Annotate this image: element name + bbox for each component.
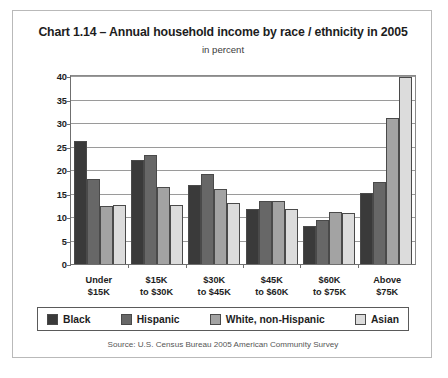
bar	[144, 155, 157, 264]
bar-group	[243, 76, 300, 264]
bar	[342, 213, 355, 264]
y-axis-tick-label: 40	[57, 72, 67, 82]
bar	[303, 226, 316, 264]
bar	[399, 77, 412, 264]
bar	[259, 201, 272, 264]
x-axis-category-label: $30Kto $45K	[185, 275, 243, 298]
x-axis-labels: Under$15K$15Kto $30K$30Kto $45K$45Kto $6…	[70, 275, 416, 298]
bar	[214, 189, 227, 264]
bar	[329, 212, 342, 264]
legend-swatch-icon	[47, 314, 58, 325]
legend-swatch-icon	[121, 314, 132, 325]
y-axis-tick-label: 10	[57, 213, 67, 223]
bar-group	[186, 76, 243, 264]
x-axis-category-label: $60Kto $75K	[301, 275, 359, 298]
legend-item[interactable]: Black	[47, 314, 90, 325]
x-axis-category-label-line: to $45K	[185, 287, 243, 299]
bar	[87, 179, 100, 264]
x-axis-category-label-line: $75K	[358, 287, 416, 299]
bar	[170, 205, 183, 264]
bar-group	[128, 76, 185, 264]
bar-group	[71, 76, 128, 264]
x-axis-category-label-line: $60K	[301, 275, 359, 287]
plot-wrapper: 0510152025303540 Under$15K$15Kto $30K$30…	[44, 69, 416, 265]
y-axis-tick-mark	[67, 265, 71, 266]
y-axis-tick-label: 30	[57, 119, 67, 129]
x-axis-category-label: Above$75K	[358, 275, 416, 298]
x-axis-tick-mark	[243, 264, 244, 268]
legend-label: Asian	[371, 314, 399, 325]
x-axis-category-label-line: Under	[70, 275, 128, 287]
bar-group	[358, 76, 415, 264]
y-axis-tick-label: 15	[57, 190, 67, 200]
legend-item[interactable]: Hispanic	[121, 314, 180, 325]
chart-figure-frame: Chart 1.14 – Annual household income by …	[12, 10, 432, 358]
bar	[157, 187, 170, 264]
x-axis-category-label-line: $30K	[185, 275, 243, 287]
x-axis-category-label-line: to $60K	[243, 287, 301, 299]
bar	[373, 182, 386, 264]
x-axis-category-label: $15Kto $30K	[128, 275, 186, 298]
y-axis-tick-label: 20	[57, 166, 67, 176]
bar-group	[300, 76, 357, 264]
bar	[188, 185, 201, 264]
bar	[285, 209, 298, 264]
bar	[113, 205, 126, 264]
bar	[227, 203, 240, 264]
x-axis-category-label-line: $15K	[70, 287, 128, 299]
chart-source: Source: U.S. Census Bureau 2005 American…	[13, 340, 433, 349]
x-axis-tick-mark	[186, 264, 187, 268]
chart-legend: BlackHispanicWhite, non-HispanicAsian	[37, 307, 409, 331]
x-axis-category-label: Under$15K	[70, 275, 128, 298]
bar	[272, 201, 285, 264]
plot-area: 0510152025303540	[70, 75, 416, 265]
x-axis-tick-mark	[300, 264, 301, 268]
x-axis-category-label: $45Kto $60K	[243, 275, 301, 298]
chart-subtitle: in percent	[13, 44, 433, 55]
x-axis-category-label-line: to $30K	[128, 287, 186, 299]
bar	[386, 118, 399, 264]
bar	[74, 141, 87, 264]
x-axis-category-label-line: $15K	[128, 275, 186, 287]
legend-item[interactable]: Asian	[355, 314, 399, 325]
bar	[246, 209, 259, 264]
bar	[100, 206, 113, 264]
x-axis-tick-mark	[358, 264, 359, 268]
bar	[360, 193, 373, 264]
y-axis-tick-label: 35	[57, 96, 67, 106]
bar	[131, 160, 144, 264]
y-axis-tick-label: 25	[57, 143, 67, 153]
x-axis-tick-mark	[128, 264, 129, 268]
legend-label: Black	[63, 314, 90, 325]
x-axis-category-label-line: Above	[358, 275, 416, 287]
legend-label: Hispanic	[137, 314, 180, 325]
legend-item[interactable]: White, non-Hispanic	[210, 314, 325, 325]
bar	[201, 174, 214, 264]
x-axis-category-label-line: $45K	[243, 275, 301, 287]
chart-title: Chart 1.14 – Annual household income by …	[13, 25, 433, 39]
legend-swatch-icon	[210, 314, 221, 325]
x-axis-category-label-line: to $75K	[301, 287, 359, 299]
legend-swatch-icon	[355, 314, 366, 325]
legend-label: White, non-Hispanic	[226, 314, 325, 325]
bar	[316, 220, 329, 264]
bars-layer	[71, 76, 415, 264]
